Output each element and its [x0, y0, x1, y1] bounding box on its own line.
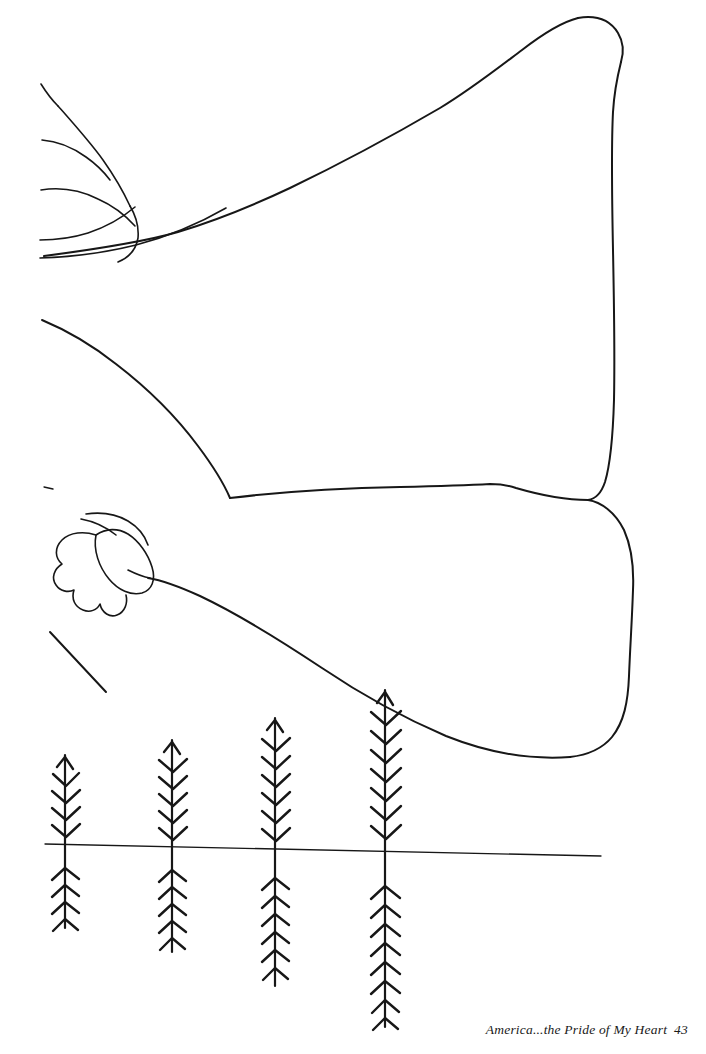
horizon-line: [45, 844, 601, 856]
fold-line-5: [118, 206, 138, 262]
flag-knot: [54, 513, 154, 616]
flag-lower-right-edge: [570, 500, 633, 757]
flag-upper-right-edge: [588, 62, 621, 500]
pole-tick-mark: [44, 487, 53, 489]
fold-line-3: [42, 140, 110, 180]
flag-lower-bottom-edge: [148, 578, 570, 758]
footer-caption: America...the Pride of My Heart43: [486, 1022, 688, 1038]
fold-line-1: [41, 84, 58, 106]
fold-line-2: [58, 106, 130, 206]
flag-lower-top-edge: [230, 484, 588, 500]
flag-lower-panel: [42, 320, 633, 758]
pole-stroke: [44, 487, 106, 692]
horizon-stroke: [45, 844, 601, 856]
wheat-stalk-1: [52, 755, 80, 931]
flag-upper-top-edge: [44, 18, 578, 256]
flag-and-wheat-illustration: [0, 0, 706, 1054]
footer-title: America...the Pride of My Heart: [486, 1022, 667, 1037]
flag-upper-panel: [44, 17, 623, 500]
fold-line-4: [41, 189, 135, 226]
footer-page-number: 43: [674, 1022, 688, 1037]
knot-connector-lower: [128, 570, 150, 578]
wheat-stalk-3: [262, 718, 290, 986]
knot-scallop-left: [54, 533, 127, 616]
flag-peak: [578, 17, 623, 62]
pole-diagonal-line: [50, 632, 106, 692]
flag-lower-left-edge: [42, 320, 230, 498]
wheat-stalk-4: [371, 690, 401, 1030]
flag-folds: [40, 84, 226, 262]
coloring-book-page: America...the Pride of My Heart43: [0, 0, 706, 1054]
